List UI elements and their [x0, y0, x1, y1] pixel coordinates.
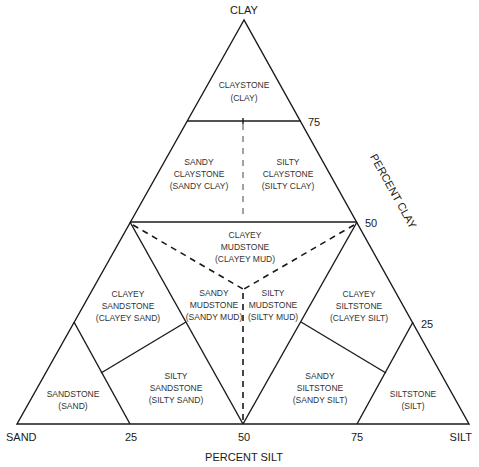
svg-text:SANDSTONE: SANDSTONE [150, 383, 203, 393]
sand-mud-boundary [130, 222, 243, 424]
bottom-tick-25: 25 [125, 431, 137, 443]
svg-text:(SANDY MUD): (SANDY MUD) [186, 312, 243, 322]
svg-text:MUDSTONE: MUDSTONE [190, 300, 239, 310]
vertex-label-sand: SAND [6, 431, 37, 443]
svg-text:(SANDY SILT): (SANDY SILT) [293, 395, 348, 405]
region-clayey-sandstone: CLAYEY SANDSTONE (CLAYEY SAND) [96, 289, 161, 323]
region-clayey-siltstone: CLAYEY SILTSTONE (CLAYEY SILT) [330, 289, 388, 323]
svg-text:CLAYEY: CLAYEY [112, 289, 145, 299]
silt-mud-boundary [243, 222, 357, 424]
svg-text:SILTSTONE: SILTSTONE [336, 301, 383, 311]
ternary-diagram: CLAY SAND SILT 25 50 75 PERCENT SILT 75 … [0, 0, 479, 467]
svg-text:SILTSTONE: SILTSTONE [390, 389, 437, 399]
region-silty-claystone: SILTY CLAYSTONE (SILTY CLAY) [262, 157, 315, 191]
vertex-label-clay: CLAY [230, 4, 259, 16]
bottom-tick-50: 50 [238, 431, 250, 443]
svg-text:MUDSTONE: MUDSTONE [249, 300, 298, 310]
sandstone-divider [101, 322, 186, 373]
svg-text:CLAYSTONE: CLAYSTONE [219, 80, 270, 90]
svg-text:(SILTY CLAY): (SILTY CLAY) [262, 181, 315, 191]
svg-text:(CLAY): (CLAY) [230, 93, 257, 103]
svg-text:SILTY: SILTY [262, 288, 285, 298]
region-silty-sandstone: SILTY SANDSTONE (SILTY SAND) [149, 371, 204, 405]
region-sandstone: SANDSTONE (SAND) [47, 389, 100, 411]
vertex-label-silt: SILT [450, 431, 473, 443]
svg-text:SANDY: SANDY [184, 157, 214, 167]
svg-text:SILTSTONE: SILTSTONE [297, 383, 344, 393]
siltstone-divider [301, 322, 386, 373]
svg-text:CLAYSTONE: CLAYSTONE [174, 169, 225, 179]
region-clayey-mudstone: CLAYEY MUDSTONE (CLAYEY MUD) [215, 230, 275, 264]
svg-text:SANDY: SANDY [305, 371, 335, 381]
bottom-tick-75: 75 [351, 431, 363, 443]
svg-text:CLAYSTONE: CLAYSTONE [263, 169, 314, 179]
svg-text:CLAYEY: CLAYEY [343, 289, 376, 299]
svg-text:SANDSTONE: SANDSTONE [102, 301, 155, 311]
svg-text:(SANDY CLAY): (SANDY CLAY) [170, 181, 229, 191]
svg-text:MUDSTONE: MUDSTONE [221, 242, 270, 252]
svg-text:(SILTY SAND): (SILTY SAND) [149, 395, 204, 405]
region-sandy-mudstone: SANDY MUDSTONE (SANDY MUD) [186, 288, 243, 322]
svg-text:SILTY: SILTY [277, 157, 300, 167]
svg-text:(SILTY MUD): (SILTY MUD) [248, 312, 298, 322]
right-tick-75: 75 [308, 116, 320, 128]
region-siltstone: SILTSTONE (SILT) [390, 389, 437, 411]
svg-text:(SAND): (SAND) [58, 401, 87, 411]
svg-text:(CLAYEY SAND): (CLAYEY SAND) [96, 313, 161, 323]
svg-text:SANDSTONE: SANDSTONE [47, 389, 100, 399]
right-tick-50: 50 [365, 217, 377, 229]
svg-text:(SILT): (SILT) [402, 401, 425, 411]
region-sandy-claystone: SANDY CLAYSTONE (SANDY CLAY) [170, 157, 229, 191]
svg-text:SANDY: SANDY [199, 288, 229, 298]
svg-text:CLAYEY: CLAYEY [229, 230, 262, 240]
right-tick-25: 25 [421, 318, 433, 330]
svg-text:SILTY: SILTY [165, 371, 188, 381]
region-claystone: CLAYSTONE (CLAY) [219, 80, 270, 103]
region-sandy-siltstone: SANDY SILTSTONE (SANDY SILT) [293, 371, 348, 405]
region-silty-mudstone: SILTY MUDSTONE (SILTY MUD) [248, 288, 298, 322]
svg-text:(CLAYEY MUD): (CLAYEY MUD) [215, 254, 275, 264]
svg-text:(CLAYEY SILT): (CLAYEY SILT) [330, 313, 388, 323]
axis-title-percent-silt: PERCENT SILT [205, 451, 283, 463]
